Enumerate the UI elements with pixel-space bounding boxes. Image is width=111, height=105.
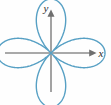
rose-curve-figure: x y [0,0,111,105]
x-axis-label: x [98,47,104,59]
plot-canvas: x y [0,0,111,105]
y-axis-label: y [43,2,49,14]
